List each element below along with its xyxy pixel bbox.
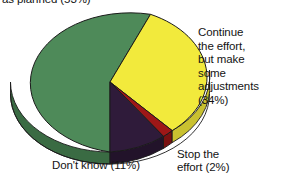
slice-label-dont-know: Don't know (11%) [52, 159, 140, 173]
slice-label-stop-the-effort: Stop the effort (2%) [177, 148, 247, 174]
slice-label-continue-as-planned: as planned (53%) [2, 0, 91, 7]
pie-chart: as planned (53%) Continue the effort, bu… [0, 0, 290, 177]
slice-label-continue-with-adjustments: Continue the effort, but make some adjus… [198, 26, 286, 108]
